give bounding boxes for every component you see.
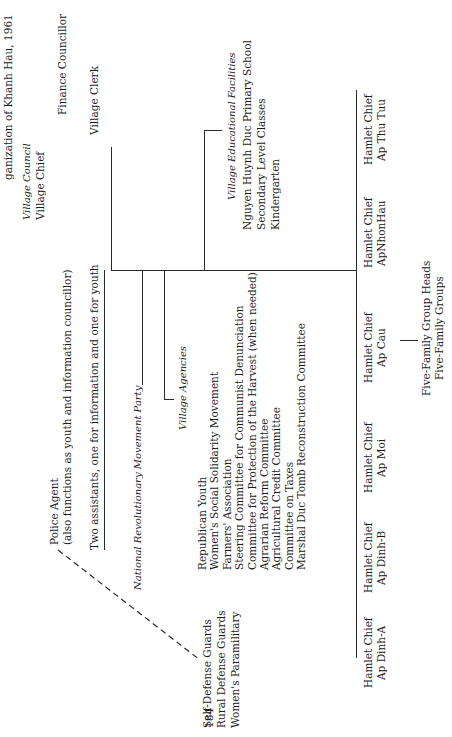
dashed-connector: [0, 0, 452, 737]
document-page: ganization of Khanh Hau, 1961 Village Co…: [0, 0, 452, 737]
